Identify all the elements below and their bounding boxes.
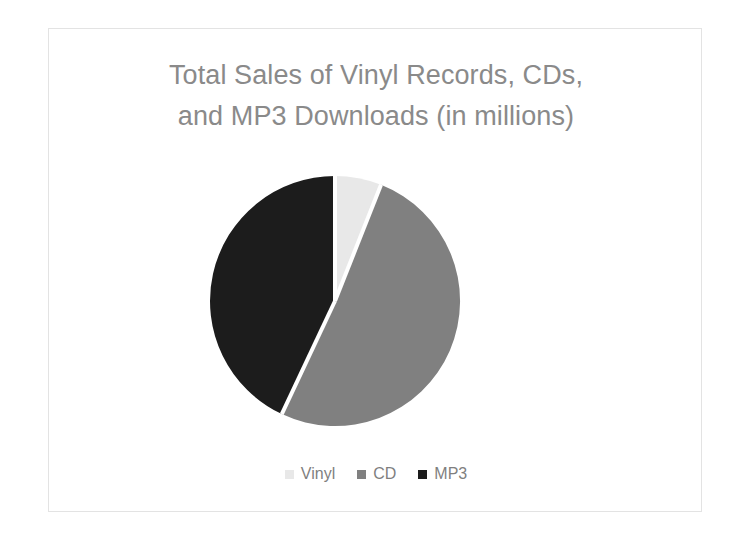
square-swatch-icon bbox=[418, 470, 427, 479]
pie-chart bbox=[205, 171, 465, 431]
slide-canvas: Total Sales of Vinyl Records, CDs,and MP… bbox=[0, 0, 747, 542]
square-swatch-icon bbox=[357, 470, 366, 479]
legend-item-label: Vinyl bbox=[301, 465, 335, 483]
chart-legend: Vinyl CD MP3 bbox=[49, 465, 703, 483]
legend-item-cd[interactable]: CD bbox=[357, 465, 396, 483]
square-swatch-icon bbox=[285, 470, 294, 479]
legend-item-label: CD bbox=[373, 465, 396, 483]
legend-item-label: MP3 bbox=[434, 465, 467, 483]
plot-area: Vinyl CD MP3 bbox=[49, 29, 703, 513]
chart-frame: Total Sales of Vinyl Records, CDs,and MP… bbox=[48, 28, 702, 512]
legend-item-vinyl[interactable]: Vinyl bbox=[285, 465, 335, 483]
legend-item-mp3[interactable]: MP3 bbox=[418, 465, 467, 483]
